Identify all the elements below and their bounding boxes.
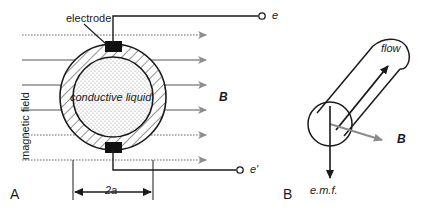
panel-b-field-symbol-label: B [397, 133, 406, 145]
magnetic-field-label: magnetic field [20, 92, 31, 160]
diameter-label: 2a [105, 185, 117, 196]
electrode-leader-line [84, 24, 106, 44]
electromagnetic-flowmeter-figure: electrode conductive liquid magnetic fie… [0, 0, 431, 223]
wire-bottom-to-terminal-e-prime [113, 150, 243, 173]
pipe-3d-body [308, 39, 409, 146]
emf-label: e.m.f. [310, 185, 338, 196]
flow-label: flow [381, 43, 401, 54]
terminal-e-prime-label: e' [250, 164, 258, 175]
figure-artwork [0, 0, 431, 223]
panel-a-label: A [10, 187, 19, 201]
panel-b-field-arrow-b [330, 124, 382, 140]
wire-top-to-terminal-e [113, 13, 265, 44]
conductive-liquid-label: conductive liquid [70, 92, 151, 103]
flow-arrow [336, 66, 388, 130]
terminal-e-label: e [272, 10, 278, 21]
panel-b-label: B [283, 187, 292, 201]
electrode-label: electrode [66, 13, 111, 24]
panel-a-field-symbol-label: B [219, 91, 228, 103]
